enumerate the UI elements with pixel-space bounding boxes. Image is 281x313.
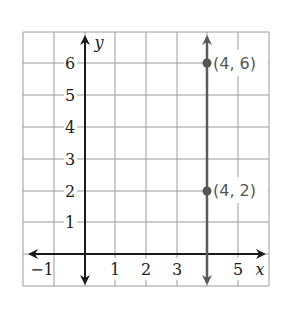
x-tick-3: 3 <box>172 260 182 279</box>
y-tick-2: 2 <box>65 182 75 201</box>
point-4-6 <box>203 59 212 68</box>
coordinate-graph: 6 5 4 3 2 1 −1 1 2 3 5 x y (4, 6) (4, 2) <box>0 0 281 313</box>
y-tick-6: 6 <box>65 54 75 73</box>
x-axis-label: x <box>255 260 264 279</box>
x-tick-1: 1 <box>110 260 120 279</box>
y-tick-5: 5 <box>65 86 75 105</box>
y-tick-4: 4 <box>65 118 75 137</box>
x-tick-2: 2 <box>141 260 151 279</box>
y-axis-label: y <box>93 33 104 52</box>
x-tick-neg1: −1 <box>30 260 54 279</box>
point-label-4-6: (4, 6) <box>213 54 256 73</box>
y-tick-1: 1 <box>65 213 75 232</box>
point-4-2 <box>203 187 212 196</box>
point-label-4-2: (4, 2) <box>213 181 256 200</box>
y-tick-3: 3 <box>65 150 75 169</box>
x-tick-5: 5 <box>233 260 243 279</box>
